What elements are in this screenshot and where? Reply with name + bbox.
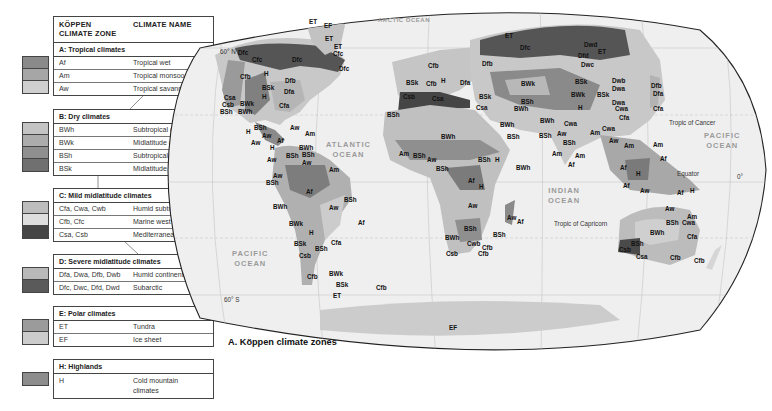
climate-code-label: ET: [333, 292, 341, 299]
climate-code-label: BWh: [299, 144, 313, 151]
climate-code-label: BWh: [441, 133, 455, 140]
climate-code-label: Csb: [619, 246, 631, 253]
climate-code-label: Csa: [432, 95, 444, 102]
climate-code-label: Cfb: [670, 254, 681, 261]
climate-code-label: Cwb: [467, 240, 480, 247]
climate-code-label: H: [578, 104, 583, 111]
climate-code-label: Aw: [329, 204, 338, 211]
climate-code-label: BWh: [445, 234, 459, 241]
climate-code-label: Am: [399, 150, 409, 157]
climate-code-label: BWh: [500, 121, 514, 128]
climate-code-label: ET: [505, 32, 513, 39]
climate-code-label: Dfc: [339, 65, 349, 72]
climate-code-label: Dfc: [238, 49, 248, 56]
climate-code-label: Af: [468, 177, 475, 184]
climate-code-label: H: [262, 93, 267, 100]
label-60n: 60° N: [220, 48, 236, 55]
climate-code-label: H: [264, 70, 269, 77]
climate-code-label: Dwa: [612, 85, 625, 92]
climate-code-label: Cfa: [687, 233, 697, 240]
climate-code-label: BSh: [436, 165, 449, 172]
climate-code-label: ET: [598, 48, 606, 55]
climate-code-label: Csb: [299, 252, 311, 259]
climate-code-label: Cwa: [602, 125, 615, 132]
ocean-label-atlantic: ATLANTIC OCEAN: [326, 140, 371, 160]
climate-code-label: Aw: [665, 205, 674, 212]
climate-code-label: BWh: [540, 117, 554, 124]
climate-code-label: Aw: [262, 132, 271, 139]
climate-code-label: BWk: [571, 91, 585, 98]
climate-code-label: Dfd: [578, 52, 589, 59]
world-map: [0, 0, 772, 411]
climate-code-label: Aw: [427, 156, 436, 163]
climate-code-label: H: [246, 128, 251, 135]
climate-code-label: BSh: [507, 133, 520, 140]
label-tropic-cancer: Tropic of Cancer: [669, 119, 715, 126]
climate-code-label: Am: [552, 150, 562, 157]
climate-code-label: BWh: [273, 203, 287, 210]
climate-code-label: Dfb: [482, 60, 493, 67]
climate-code-label: Am: [575, 152, 585, 159]
climate-code-label: Af: [277, 137, 284, 144]
climate-code-label: Dfc: [292, 56, 302, 63]
climate-code-label: BSh: [344, 196, 357, 203]
climate-code-label: BSh: [563, 139, 576, 146]
climate-code-label: Csb: [403, 93, 415, 100]
climate-code-label: BSk: [406, 79, 418, 86]
climate-code-label: BSh: [493, 231, 506, 238]
climate-code-label: Aw: [302, 159, 311, 166]
climate-code-label: BSk: [597, 91, 609, 98]
climate-code-label: BSh: [478, 156, 491, 163]
label-zero-degrees: 0°: [737, 173, 743, 180]
map-title: A. Köppen climate zones: [228, 337, 337, 347]
climate-code-label: Dfb: [285, 77, 296, 84]
climate-code-label: H: [636, 170, 641, 177]
climate-code-label: Dfa: [460, 79, 470, 86]
climate-code-label: BSk: [294, 240, 306, 247]
climate-code-label: BSk: [575, 78, 587, 85]
climate-code-label: Cfb: [376, 284, 387, 291]
climate-code-label: Aw: [290, 124, 299, 131]
climate-code-label: Cfa: [619, 114, 629, 121]
climate-code-label: BSh: [631, 240, 644, 247]
climate-code-label: H: [479, 183, 484, 190]
climate-code-label: Csa: [476, 104, 488, 111]
climate-code-label: Dwb: [612, 77, 625, 84]
label-tropic-capricorn: Tropic of Capricorn: [554, 220, 607, 227]
climate-code-label: EF: [324, 22, 332, 29]
label-equator: Equator: [677, 170, 699, 177]
ocean-label-indian: INDIAN OCEAN: [548, 186, 580, 206]
climate-code-label: ET: [309, 18, 317, 25]
climate-code-label: Am: [624, 142, 634, 149]
ocean-label-pacific-east: PACIFIC OCEAN: [704, 131, 740, 151]
climate-code-label: H: [441, 77, 446, 84]
climate-code-label: Dfa: [284, 88, 294, 95]
climate-code-label: H: [270, 144, 275, 151]
climate-code-label: Cfa: [653, 105, 663, 112]
climate-code-label: Dfa: [653, 90, 663, 97]
climate-code-label: Cwa: [682, 219, 695, 226]
climate-code-label: Af: [568, 161, 575, 168]
climate-code-label: Af: [623, 182, 630, 189]
climate-code-label: Cfc: [333, 50, 343, 57]
climate-code-label: Aw: [609, 137, 618, 144]
climate-code-label: Cfb: [307, 273, 318, 280]
climate-code-label: BSh: [254, 124, 267, 131]
climate-code-label: BSh: [413, 152, 426, 159]
climate-code-label: BWh: [516, 164, 530, 171]
climate-code-label: BWh: [650, 229, 664, 236]
climate-code-label: Aw: [267, 156, 276, 163]
climate-code-label: BSh: [315, 245, 328, 252]
climate-code-label: BSh: [266, 179, 279, 186]
climate-code-label: Aw: [468, 202, 477, 209]
climate-code-label: Cfa: [331, 239, 341, 246]
climate-code-label: Cwa: [615, 105, 628, 112]
climate-code-label: BWh: [238, 108, 252, 115]
climate-code-label: H: [309, 229, 314, 236]
climate-code-label: BSh: [666, 219, 679, 226]
climate-code-label: Aw: [640, 187, 649, 194]
climate-code-label: BSk: [262, 84, 274, 91]
climate-code-label: ET: [325, 35, 333, 42]
climate-code-label: Cfb: [694, 257, 705, 264]
climate-code-label: Af: [358, 219, 365, 226]
